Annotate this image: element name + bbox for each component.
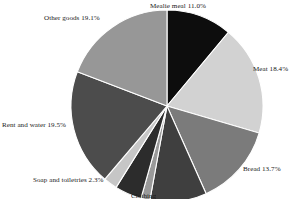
pie-label-clipped-bottom: Clothing <box>131 193 156 199</box>
pie-label-bread: Bread 13.7% <box>243 166 281 173</box>
pie-label-mealie-meal: Mealie meal 11.0% <box>150 3 206 10</box>
pie-slices <box>71 10 263 199</box>
pie-label-soap-and-toiletries: Soap and toiletries 2.3% <box>33 177 104 184</box>
pie-label-other-goods: Other goods 19.1% <box>44 15 100 22</box>
pie-label-meat: Meat 18.4% <box>253 66 288 73</box>
pie-chart-figure: Mealie meal 11.0% Meat 18.4% Bread 13.7%… <box>0 0 301 199</box>
pie-label-rent-and-water: Rent and water 19.5% <box>2 122 66 129</box>
